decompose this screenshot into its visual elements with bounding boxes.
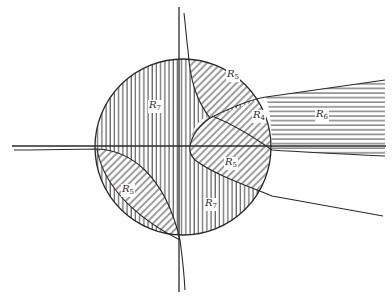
label-r7-lower: R7 xyxy=(204,198,218,211)
region-diagram xyxy=(0,0,392,299)
label-r5-upper: R5 xyxy=(226,69,240,82)
label-r4: R4 xyxy=(252,110,266,123)
label-r7-upper: R7 xyxy=(148,100,162,113)
label-r6: R6 xyxy=(315,109,329,122)
label-r5-lower: R5 xyxy=(224,157,238,170)
label-r5-left: R5 xyxy=(121,184,135,197)
